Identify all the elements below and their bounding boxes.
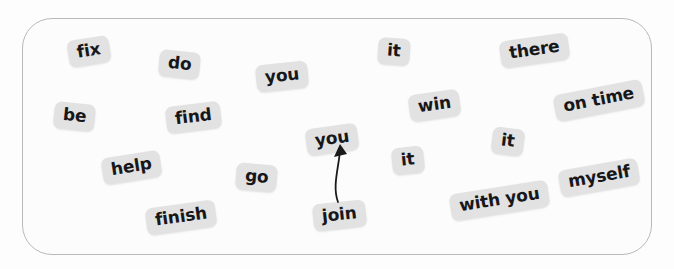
word-tile[interactable]: it (377, 37, 410, 66)
word-tile[interactable]: it (391, 145, 425, 175)
word-tile[interactable]: do (158, 49, 202, 80)
word-tile[interactable]: it (490, 126, 525, 156)
word-tile[interactable]: you (255, 60, 310, 92)
word-tile[interactable]: be (53, 101, 97, 132)
word-tile[interactable]: go (235, 162, 279, 192)
word-tile[interactable]: join (312, 199, 367, 231)
word-tile-canvas: fixdoyouittherebefindwinon timeyouithelp… (0, 0, 674, 269)
